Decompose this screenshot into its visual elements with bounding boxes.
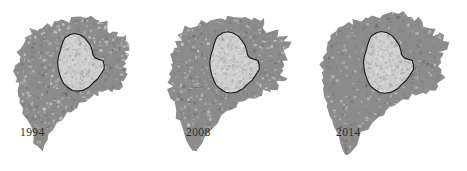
year-label-2008: 2008: [186, 126, 211, 138]
year-label-2014: 2014: [336, 126, 361, 138]
map-panel-1994: [0, 0, 156, 171]
year-label-1994: 1994: [20, 126, 45, 138]
map-panel-2014: [311, 0, 467, 171]
map-svg-1994: [0, 0, 156, 171]
figure-root: 1994 2008 2014: [0, 0, 467, 171]
map-svg-2014: [311, 0, 467, 171]
map-svg-2008: [156, 0, 312, 171]
map-panel-2008: [156, 0, 312, 171]
